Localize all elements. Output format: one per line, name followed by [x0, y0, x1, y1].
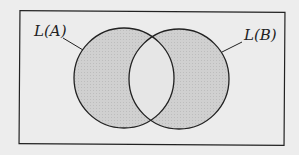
label-set-b: L(B)	[244, 28, 277, 43]
venn-diagram: L(A) L(B)	[0, 0, 299, 155]
label-set-a: L(A)	[34, 24, 67, 39]
